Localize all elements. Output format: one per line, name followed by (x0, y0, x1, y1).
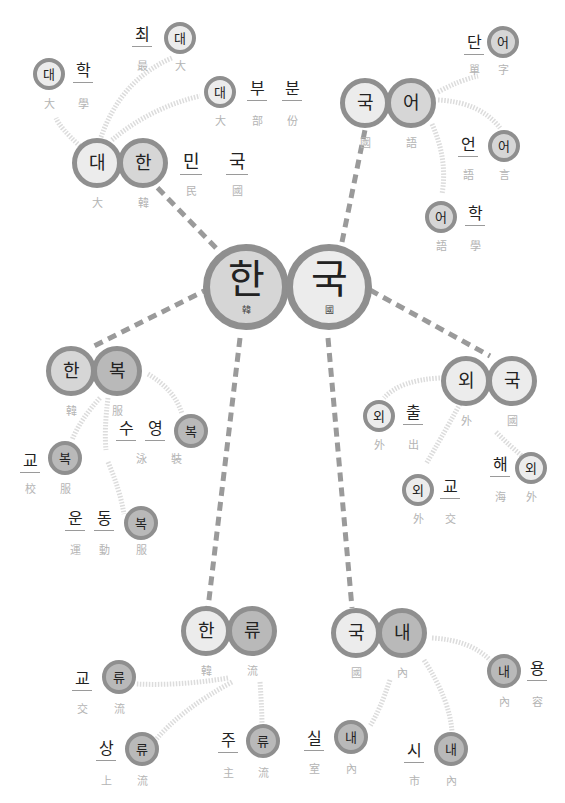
leaf-eohak-eo[interactable]: 어 (425, 201, 457, 233)
hangul-label: 국 (348, 624, 365, 642)
center-syllable-guk[interactable]: 국 國 (286, 244, 372, 330)
hangul-label: 복 (185, 425, 197, 438)
node-gungnae-nae[interactable]: 내 (377, 608, 427, 658)
node-oeguk-oe[interactable]: 외 (441, 356, 491, 406)
leaf-oechul-oe[interactable]: 외 (363, 400, 395, 432)
center-syllable-han[interactable]: 한 韓 (203, 244, 289, 330)
syllable-choe: 최 (132, 26, 152, 47)
hangul-label: 류 (244, 622, 261, 640)
node-hanbok-han[interactable]: 한 (46, 346, 96, 396)
hanja-gloss: 韓 (133, 194, 153, 210)
leaf-choedae-dae[interactable]: 대 (164, 22, 196, 54)
hanja-gloss: 學 (465, 237, 485, 253)
leaf-daehak-dae[interactable]: 대 (33, 58, 65, 90)
hangul-label: 대 (89, 154, 106, 172)
leaf-haeoe-oe[interactable]: 외 (515, 452, 547, 484)
leaf-undongbok-bok[interactable]: 복 (124, 506, 158, 540)
node-gungnae-guk[interactable]: 국 (331, 608, 381, 658)
hanja-gloss: 上 (96, 772, 116, 788)
hangul-label: 어 (497, 36, 509, 49)
hanja-gloss: 內 (441, 772, 461, 788)
hangul-label: 외 (525, 462, 537, 475)
leaf-daebubun-dae[interactable]: 대 (204, 76, 236, 108)
hanja-gloss: 外 (521, 488, 541, 504)
hanja-gloss: 出 (403, 436, 423, 452)
hanja-gloss: 服 (107, 402, 127, 418)
leaf-juryu-ryu[interactable]: 류 (246, 724, 280, 758)
leaf-gyobok-bok[interactable]: 복 (48, 441, 82, 475)
hanja-gloss: 外 (408, 510, 428, 526)
hanja-gloss: 國 (346, 664, 366, 680)
hanja-gloss: 大 (39, 95, 59, 111)
hangul-label: 국 (357, 94, 374, 112)
hanja-gloss: 言 (494, 166, 514, 182)
hangul-label: 내 (498, 665, 510, 678)
hanja-gloss: 部 (247, 112, 267, 128)
hangul-label: 외 (373, 410, 385, 423)
node-gugeo-guk[interactable]: 국 (340, 78, 390, 128)
hangul-label: 어 (435, 211, 447, 224)
syllable-hak: 학 (73, 62, 93, 83)
syllable-yong: 용 (527, 660, 547, 681)
hanja-gloss: 國 (355, 134, 375, 150)
hangul-label: 내 (394, 624, 411, 642)
syllable-gyo: 교 (72, 670, 92, 691)
hanja-gloss: 泳 (131, 450, 151, 466)
hangul-label: 한 (228, 259, 265, 299)
hanja-gloss: 大 (210, 112, 230, 128)
syllable-su: 수 (116, 420, 136, 441)
hanja-label: 國 (325, 303, 334, 316)
node-daehan-dae[interactable]: 대 (72, 138, 122, 188)
hangul-label: 대 (214, 86, 226, 99)
hangul-label: 외 (412, 484, 424, 497)
leaf-oegyo-oe[interactable]: 외 (402, 474, 434, 506)
node-oeguk-guk[interactable]: 국 (487, 356, 537, 406)
hanja-gloss: 語 (431, 237, 451, 253)
leaf-sangryu-ryu[interactable]: 류 (125, 732, 159, 766)
hanja-gloss: 份 (282, 112, 302, 128)
hangul-label: 한 (198, 622, 215, 640)
hangul-label: 류 (257, 735, 269, 748)
hangul-label: 내 (445, 743, 457, 756)
hanja-gloss: 國 (502, 412, 522, 428)
leaf-eoneo-eo[interactable]: 어 (488, 130, 520, 162)
leaf-suyeongbok-bok[interactable]: 복 (174, 414, 208, 448)
node-hallyu-ryu[interactable]: 류 (227, 606, 277, 656)
hangul-label: 외 (458, 372, 475, 390)
syllable-hak: 학 (465, 205, 485, 226)
hanja-gloss: 內 (392, 664, 412, 680)
node-daehan-han[interactable]: 한 (118, 138, 168, 188)
hanja-gloss: 大 (87, 194, 107, 210)
dashed-links (94, 125, 490, 608)
syllable-gyo: 교 (20, 452, 40, 473)
syllable-bu: 부 (247, 80, 267, 101)
hanja-gloss: 室 (304, 760, 324, 776)
hanja-gloss: 語 (458, 166, 478, 182)
leaf-naeyong-nae[interactable]: 내 (487, 654, 521, 688)
hanja-gloss: 運 (65, 541, 85, 557)
hanja-gloss: 國 (227, 182, 247, 198)
hanja-gloss: 外 (456, 412, 476, 428)
hangul-label: 국 (504, 372, 521, 390)
syllable-sil: 실 (304, 730, 324, 751)
hangul-label: 복 (109, 362, 126, 380)
hanja-gloss: 內 (494, 693, 514, 709)
hanja-gloss: 動 (94, 541, 114, 557)
node-hanbok-bok[interactable]: 복 (92, 346, 142, 396)
hangul-label: 류 (136, 743, 148, 756)
hanja-gloss: 主 (218, 764, 238, 780)
syllable-sang: 상 (96, 740, 116, 761)
hangul-label: 어 (403, 94, 420, 112)
leaf-silnae-nae[interactable]: 내 (334, 720, 368, 754)
leaf-daneo-eo[interactable]: 어 (487, 26, 519, 58)
leaf-gyoryu-ryu[interactable]: 류 (102, 660, 136, 694)
hanja-label: 韓 (242, 303, 251, 316)
node-gugeo-eo[interactable]: 어 (386, 78, 436, 128)
leaf-sinae-nae[interactable]: 내 (434, 732, 468, 766)
syllable-dan: 단 (464, 34, 484, 55)
korean-word-map: 한 韓 국 國 대 한 大 韓 민 국 民 國 대 학 大 學 최 대 最 大 … (0, 0, 565, 803)
hangul-label: 류 (113, 671, 125, 684)
node-hallyu-han[interactable]: 한 (181, 606, 231, 656)
hanja-gloss: 民 (181, 182, 201, 198)
hanja-gloss: 服 (131, 541, 151, 557)
